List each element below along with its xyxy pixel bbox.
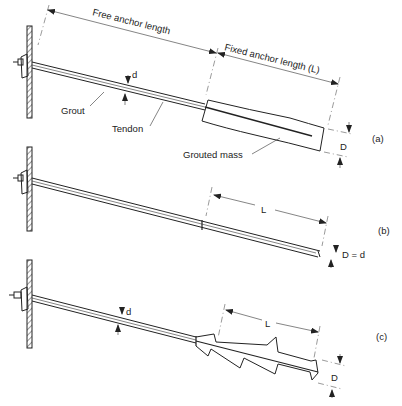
d-marker-a (125, 75, 128, 105)
panel-a: Free anchor length Fixed anchor length (… (13, 5, 384, 168)
L-dimension-c-left (226, 310, 262, 320)
grouted-mass-label: Grouted mass (183, 149, 243, 160)
L-label-c: L (265, 318, 270, 329)
ext-line-b-left (206, 187, 212, 216)
ext-line-b-right (322, 216, 328, 246)
tendon-leader (150, 102, 163, 126)
d-label-a: d (132, 69, 137, 80)
ext-line-a-mid (206, 48, 218, 95)
D-dimension-b (331, 245, 336, 268)
ext-line-a-left (38, 5, 49, 45)
tendon-free-a (32, 62, 205, 110)
D-dimension-a (324, 122, 352, 168)
L-dimension-b-left (214, 195, 255, 205)
D-eq-d-label: D = d (342, 249, 365, 260)
tendon-b (32, 178, 320, 257)
D-label-c: D (331, 372, 338, 383)
d-label-c: d (126, 306, 131, 317)
panel-b-caption: (b) (378, 225, 390, 236)
D-label-a: D (340, 141, 347, 152)
grout-label: Grout (61, 105, 85, 116)
panel-c: d L D (c) (9, 260, 387, 398)
tendon-free-c (32, 295, 196, 346)
free-anchor-length-label: Free anchor length (92, 6, 172, 36)
anchor-head-a (13, 54, 28, 78)
ext-line-c-left (218, 304, 225, 338)
L-dimension-b-right (275, 210, 326, 223)
panel-c-caption: (c) (376, 331, 387, 342)
L-label-b: L (261, 204, 266, 215)
ext-line-a-right (328, 77, 340, 125)
anchor-head-c (9, 287, 28, 311)
panel-b: L D = d (b) (13, 147, 390, 268)
panel-a-caption: (a) (372, 133, 384, 144)
ground-anchor-diagram: Free anchor length Fixed anchor length (… (0, 0, 402, 406)
L-dimension-c-right (276, 323, 318, 332)
grouted-mass-a (202, 100, 324, 151)
grout-leader (90, 92, 104, 106)
ext-line-c-right (314, 326, 320, 358)
grouted-mass-leader (252, 138, 280, 154)
tendon-label: Tendon (112, 123, 143, 134)
under-reamed-section-c (196, 334, 318, 380)
anchor-head-b (13, 170, 28, 194)
